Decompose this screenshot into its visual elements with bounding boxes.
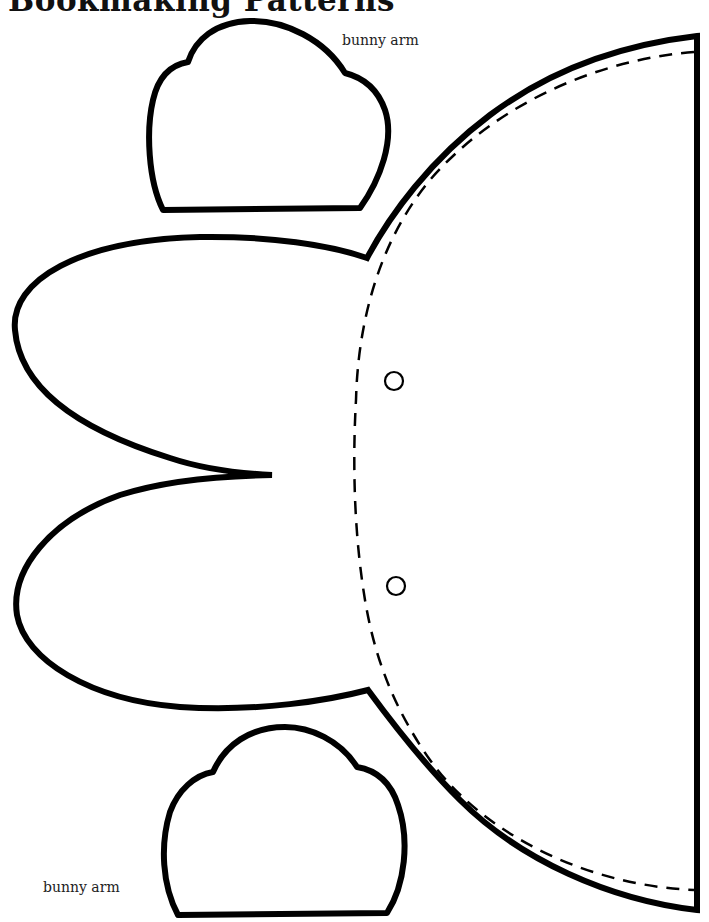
punch-hole-bottom (387, 577, 405, 595)
bunny-arm-bottom-outline (164, 727, 405, 915)
fold-line-dashed (354, 52, 694, 890)
bunny-arm-top-outline (149, 21, 388, 210)
punch-hole-top (385, 372, 403, 390)
pattern-artwork (0, 0, 709, 922)
bunny-body-outline (15, 36, 697, 910)
